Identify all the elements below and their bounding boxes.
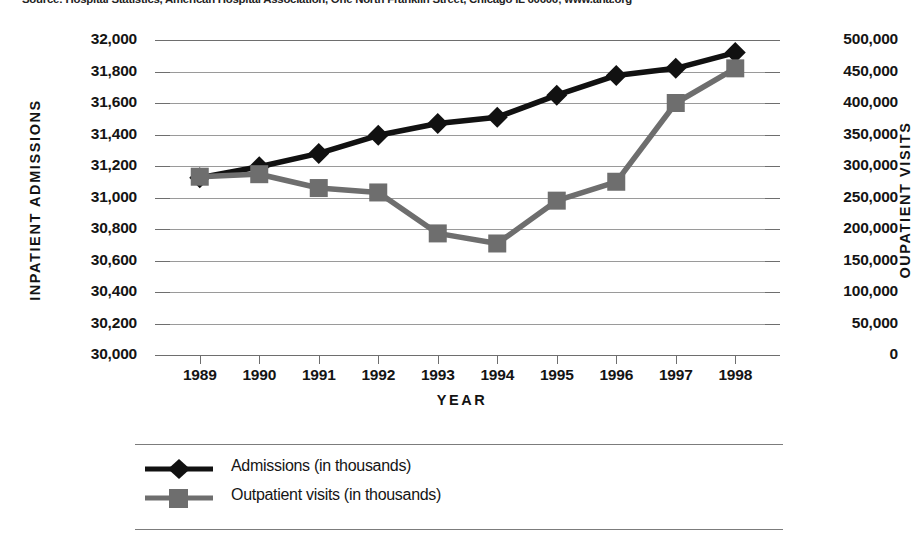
black-diamond-marker [143, 456, 215, 482]
plot-area [170, 40, 765, 355]
y-tick-left [155, 40, 170, 41]
x-tick [378, 355, 379, 364]
gridline [170, 292, 765, 293]
y-tick-right [765, 166, 780, 167]
x-tick [616, 355, 617, 364]
y-tick-left [155, 324, 170, 325]
gridline [170, 166, 765, 167]
x-tick [497, 355, 498, 364]
y-axis-left-label: 32,000 [27, 30, 137, 48]
right-axis-title: OUPATIENT VISITS [897, 85, 913, 315]
y-tick-right [765, 355, 780, 356]
y-axis-right-label: 200,000 [800, 219, 898, 237]
y-tick-right [765, 40, 780, 41]
y-tick-right [765, 292, 780, 293]
gridline [170, 261, 765, 262]
x-tick [438, 355, 439, 364]
y-axis-left-label: 30,400 [27, 282, 137, 300]
x-axis-label: 1998 [700, 366, 770, 384]
y-tick-left [155, 135, 170, 136]
x-tick [735, 355, 736, 364]
gridline [170, 135, 765, 136]
x-tick [259, 355, 260, 364]
y-axis-right-label: 150,000 [800, 251, 898, 269]
y-axis-left-label: 31,200 [27, 156, 137, 174]
legend-label-outpatient: Outpatient visits (in thousands) [231, 486, 441, 504]
y-tick-left [155, 198, 170, 199]
gray-square-marker [143, 485, 215, 511]
gridline [170, 198, 765, 199]
y-axis-right-label: 50,000 [800, 314, 898, 332]
x-tick [676, 355, 677, 364]
gridline [170, 103, 765, 104]
y-tick-right [765, 229, 780, 230]
y-axis-left-label: 31,000 [27, 188, 137, 206]
legend-top-rule [135, 444, 783, 445]
y-tick-left [155, 229, 170, 230]
y-tick-right [765, 324, 780, 325]
x-tick [319, 355, 320, 364]
y-axis-right-label: 300,000 [800, 156, 898, 174]
x-tick [200, 355, 201, 364]
y-axis-right-label: 250,000 [800, 188, 898, 206]
y-axis-left-label: 30,600 [27, 251, 137, 269]
y-axis-right-label: 400,000 [800, 93, 898, 111]
y-tick-left [155, 292, 170, 293]
y-axis-left-label: 31,800 [27, 62, 137, 80]
gridline [170, 229, 765, 230]
y-tick-right [765, 72, 780, 73]
y-axis-right-label: 500,000 [800, 30, 898, 48]
y-axis-right-label: 0 [800, 345, 898, 363]
y-axis-left-label: 30,200 [27, 314, 137, 332]
y-tick-left [155, 261, 170, 262]
y-axis-left-label: 30,000 [27, 345, 137, 363]
y-tick-right [765, 261, 780, 262]
chart-figure: Source: Hospital Statistics, American Ho… [0, 0, 924, 552]
gridline [170, 72, 765, 73]
y-tick-right [765, 135, 780, 136]
gridline [170, 324, 765, 325]
source-note: Source: Hospital Statistics, American Ho… [22, 0, 912, 7]
y-axis-right-label: 100,000 [800, 282, 898, 300]
y-tick-right [765, 198, 780, 199]
x-axis-title: YEAR [0, 392, 924, 408]
legend-label-admissions: Admissions (in thousands) [231, 457, 411, 475]
y-axis-left-label: 31,400 [27, 125, 137, 143]
y-tick-left [155, 166, 170, 167]
x-tick [557, 355, 558, 364]
y-tick-right [765, 103, 780, 104]
y-tick-left [155, 355, 170, 356]
y-axis-left-label: 31,600 [27, 93, 137, 111]
y-axis-right-label: 350,000 [800, 125, 898, 143]
gridline [170, 40, 765, 41]
y-axis-left-label: 30,800 [27, 219, 137, 237]
y-tick-left [155, 72, 170, 73]
y-axis-right-label: 450,000 [800, 62, 898, 80]
y-tick-left [155, 103, 170, 104]
legend-bottom-rule [135, 529, 783, 530]
